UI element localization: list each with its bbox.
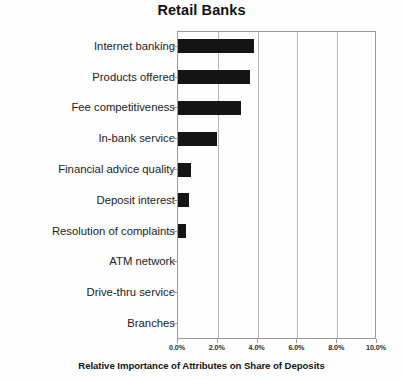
x-axis-tick-label: 4.0% xyxy=(237,343,277,352)
bar xyxy=(178,39,254,53)
chart-row: Branches xyxy=(0,308,403,339)
chart-row: In-bank service xyxy=(0,123,403,154)
y-axis-tick-mark xyxy=(172,138,177,139)
bar xyxy=(178,193,189,207)
y-axis-tick-mark xyxy=(172,200,177,201)
y-axis-tick-mark xyxy=(172,261,177,262)
category-label: In-bank service xyxy=(5,132,175,145)
chart-row: Resolution of complaints xyxy=(0,216,403,247)
y-axis-tick-mark xyxy=(172,231,177,232)
bar-chart: Retail Banks Internet bankingProducts of… xyxy=(0,0,403,380)
bar xyxy=(178,132,217,146)
chart-title: Retail Banks xyxy=(0,2,403,18)
category-label: Fee competitiveness xyxy=(5,101,175,114)
x-axis-tick-label: 8.0% xyxy=(316,343,356,352)
category-label: Drive-thru service xyxy=(5,286,175,299)
chart-row: Financial advice quality xyxy=(0,154,403,185)
category-label: ATM network xyxy=(5,255,175,268)
category-label: Deposit interest xyxy=(5,194,175,207)
x-axis-tick-labels: 0.0%2.0%4.0%6.0%8.0%10.0% xyxy=(0,343,403,355)
y-axis-tick-mark xyxy=(172,107,177,108)
x-axis-title: Relative Importance of Attributes on Sha… xyxy=(0,360,403,371)
category-label: Branches xyxy=(5,317,175,330)
category-label: Resolution of complaints xyxy=(5,225,175,238)
chart-row: Products offered xyxy=(0,62,403,93)
y-axis-tick-mark xyxy=(172,169,177,170)
bar xyxy=(178,163,191,177)
category-rows: Internet bankingProducts offeredFee comp… xyxy=(0,31,403,339)
x-axis-tick-label: 6.0% xyxy=(276,343,316,352)
x-axis-tick-label: 2.0% xyxy=(197,343,237,352)
bar xyxy=(178,224,186,238)
y-axis-tick-mark xyxy=(172,323,177,324)
chart-row: Deposit interest xyxy=(0,185,403,216)
y-axis-tick-mark xyxy=(172,46,177,47)
bar xyxy=(178,101,241,115)
category-label: Products offered xyxy=(5,71,175,84)
chart-row: Fee competitiveness xyxy=(0,93,403,124)
category-label: Internet banking xyxy=(5,40,175,53)
y-axis-tick-mark xyxy=(172,292,177,293)
chart-row: ATM network xyxy=(0,247,403,278)
category-label: Financial advice quality xyxy=(5,163,175,176)
x-axis-tick-label: 0.0% xyxy=(157,343,197,352)
chart-row: Internet banking xyxy=(0,31,403,62)
bar xyxy=(178,70,250,84)
chart-row: Drive-thru service xyxy=(0,277,403,308)
x-axis-tick-label: 10.0% xyxy=(356,343,396,352)
y-axis-tick-mark xyxy=(172,77,177,78)
